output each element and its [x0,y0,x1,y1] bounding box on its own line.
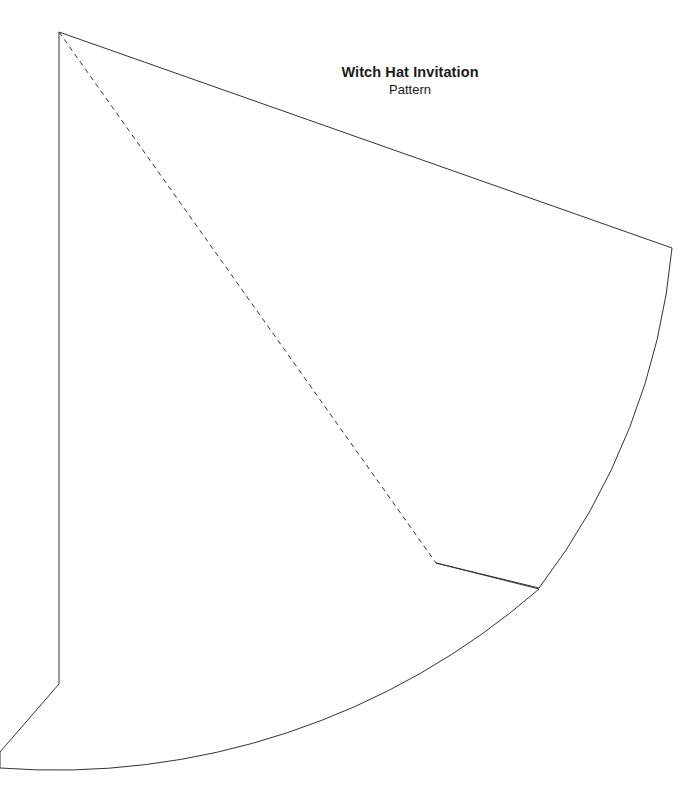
witch-hat-pattern-drawing [0,0,700,796]
pattern-outline [0,32,672,770]
fold-line [59,32,436,563]
pattern-page: Witch Hat Invitation Pattern [0,0,700,796]
